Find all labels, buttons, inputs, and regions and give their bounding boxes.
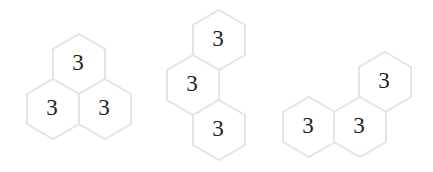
cell-number: 3 [186, 71, 198, 96]
cell-number: 3 [378, 68, 390, 93]
piece-bent-line[interactable]: 333 [283, 52, 411, 157]
cell-number: 3 [72, 50, 84, 75]
cell-number: 3 [302, 113, 314, 138]
game-board: 333 333 333 [0, 0, 433, 172]
cell-number: 3 [98, 95, 110, 120]
cell-number: 3 [212, 116, 224, 141]
hex-cell[interactable]: 3 [283, 97, 335, 157]
cell-number: 3 [46, 95, 58, 120]
cell-number: 3 [353, 113, 365, 138]
cell-number: 3 [212, 26, 224, 51]
piece-triangle[interactable]: 333 [27, 34, 131, 139]
piece-zigzag-vertical[interactable]: 333 [167, 10, 245, 160]
